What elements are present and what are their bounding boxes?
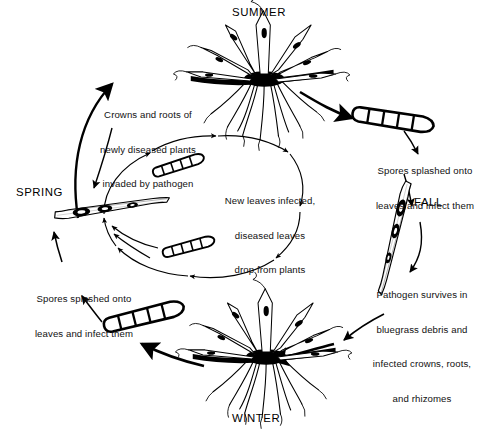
label-new-leaves-line-2: diseased leaves	[202, 230, 338, 242]
label-spores-top-line-2: leaves and infect them	[362, 200, 488, 212]
arc-spring-leaf-right	[114, 234, 150, 258]
label-pathogen-line-2: bluegrass debris and	[356, 324, 488, 336]
label-pathogen-line-1: Pathogen survives in	[356, 289, 488, 301]
label-pathogen-line-4: and rhizomes	[356, 393, 488, 405]
label-pathogen-line-3: infected crowns, roots,	[356, 358, 488, 370]
season-label-winter: WINTER	[232, 412, 280, 424]
label-new-leaves-line-3: drop from plants	[202, 264, 338, 276]
season-label-summer: SUMMER	[232, 6, 286, 18]
arc-inner-right-to-spring	[112, 226, 158, 248]
label-new-leaves-infected: New leaves infected, diseased leaves dro…	[202, 172, 338, 299]
arc-spring-label-to-leaf	[54, 232, 62, 262]
label-spores-splashed-bottom: Spores splashed onto leaves and infect t…	[18, 270, 150, 362]
label-crowns-line-3: invaded by pathogen	[80, 178, 216, 190]
spore-top-right	[351, 105, 434, 133]
disease-cycle-diagram: SUMMER FALL WINTER SPRING Crowns and roo…	[0, 0, 492, 436]
label-spores-bottom-line-1: Spores splashed onto	[18, 293, 150, 305]
label-crowns-line-2: newly diseased plants	[80, 144, 216, 156]
label-pathogen-survives: Pathogen survives in bluegrass debris an…	[356, 266, 488, 427]
label-spores-top-line-1: Spores splashed onto	[362, 165, 488, 177]
label-crowns-line-1: Crowns and roots of	[80, 109, 216, 121]
label-spores-splashed-top: Spores splashed onto leaves and infect t…	[362, 142, 488, 234]
label-new-leaves-line-1: New leaves infected,	[202, 195, 338, 207]
label-spores-bottom-line-2: leaves and infect them	[18, 328, 150, 340]
season-label-spring: SPRING	[16, 186, 63, 198]
label-crowns-and-roots: Crowns and roots of newly diseased plant…	[80, 86, 216, 213]
